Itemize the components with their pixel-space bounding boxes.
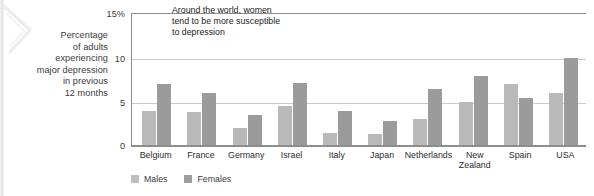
- bar-females: [248, 115, 262, 147]
- bar-males: [187, 112, 201, 147]
- x-label-usa: USA: [543, 150, 588, 170]
- bar-group: [496, 14, 541, 147]
- legend-item-females: Females: [184, 174, 231, 184]
- chart-annotation: Around the world, women tend to be more …: [172, 5, 280, 38]
- bar-males: [504, 84, 518, 147]
- bar-females: [338, 111, 352, 147]
- x-label-netherlands: Netherlands: [405, 150, 452, 170]
- legend-item-males: Males: [131, 174, 167, 184]
- x-label-israel: Israel: [269, 150, 314, 170]
- y-tick-5: 5: [120, 98, 125, 108]
- legend-swatch-males-icon: [131, 175, 139, 183]
- x-label-new-zealand: New Zealand: [452, 150, 497, 170]
- y-axis-tick-labels: 15% 10 5 0: [95, 13, 128, 147]
- legend-label-females: Females: [197, 174, 231, 184]
- legend-swatch-females-icon: [184, 175, 192, 183]
- x-label-belgium: Belgium: [133, 150, 178, 170]
- x-label-france: France: [178, 150, 223, 170]
- x-label-spain: Spain: [497, 150, 542, 170]
- y-tick-0: 0: [120, 141, 125, 151]
- bar-males: [278, 106, 292, 147]
- x-axis-line: [132, 145, 586, 147]
- bar-females: [202, 93, 216, 147]
- bar-females: [428, 89, 442, 147]
- chart-legend: Males Females: [131, 174, 231, 184]
- bar-males: [549, 93, 563, 147]
- chart-page: Percentage of adults experiencing major …: [0, 0, 594, 196]
- bar-males: [233, 128, 247, 147]
- bar-group: [360, 14, 405, 147]
- bar-females: [383, 121, 397, 147]
- bar-females: [564, 58, 578, 147]
- bar-males: [413, 119, 427, 147]
- bar-males: [142, 111, 156, 147]
- bar-group: [315, 14, 360, 147]
- bar-males: [459, 102, 473, 147]
- bar-females: [157, 84, 171, 147]
- bar-group: [450, 14, 495, 147]
- y-tick-15: 15%: [107, 9, 125, 19]
- bar-group: [541, 14, 586, 147]
- x-label-italy: Italy: [314, 150, 359, 170]
- x-label-germany: Germany: [224, 150, 269, 170]
- bar-females: [474, 76, 488, 147]
- x-axis-labels: BelgiumFranceGermanyIsraelItalyJapanNeth…: [133, 150, 588, 170]
- bar-females: [519, 98, 533, 147]
- bar-females: [293, 83, 307, 147]
- bar-group: [405, 14, 450, 147]
- y-tick-10: 10: [115, 54, 125, 64]
- legend-label-males: Males: [144, 174, 167, 184]
- x-label-japan: Japan: [359, 150, 404, 170]
